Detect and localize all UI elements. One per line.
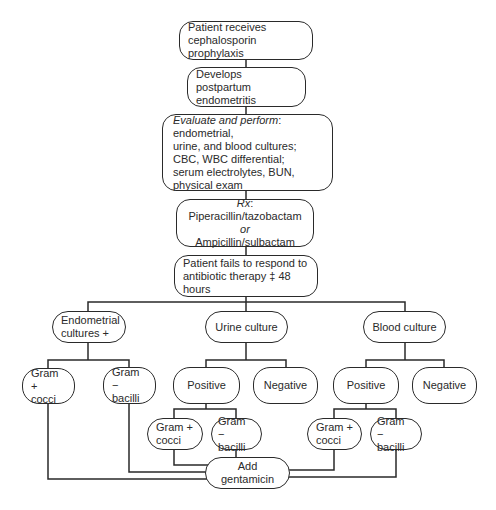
node-urine-gram-positive: Gram + cocci bbox=[147, 418, 203, 450]
node-label-italic: Evaluate and perform bbox=[173, 114, 278, 126]
node-rx-antibiotics: Rx: Piperacillin/tazobactamorAmpicillin/… bbox=[176, 199, 314, 247]
node-blood-gram-negative: Gram − bacilli bbox=[370, 418, 422, 450]
node-blood-culture: Blood culture bbox=[363, 311, 446, 343]
node-urine-positive: Positive bbox=[173, 367, 240, 404]
node-label: Endometrial cultures + bbox=[61, 314, 120, 340]
node-label: Gram + cocci bbox=[316, 421, 353, 447]
node-endometrial-gram-negative: Gram − bacilli bbox=[103, 367, 156, 404]
node-urine-negative: Negative bbox=[253, 367, 318, 404]
node-label: Urine culture bbox=[215, 321, 277, 334]
node-patient-receives-prophylaxis: Patient receives cephalosporin prophylax… bbox=[179, 21, 313, 60]
node-evaluate-and-perform: Evaluate and perform: endometrial, urine… bbox=[162, 114, 333, 191]
node-blood-negative: Negative bbox=[412, 367, 477, 404]
node-label-or: or bbox=[240, 223, 250, 235]
node-fails-to-respond: Patient fails to respond to antibiotic t… bbox=[174, 255, 318, 297]
node-label: Gram − bacilli bbox=[218, 415, 253, 454]
node-add-gentamicin: Add gentamicin bbox=[205, 457, 290, 489]
node-label: Patient receives cephalosporin prophylax… bbox=[188, 21, 304, 60]
node-label: Add gentamicin bbox=[214, 460, 281, 486]
node-label: Negative bbox=[264, 379, 307, 392]
node-blood-positive: Positive bbox=[333, 367, 399, 404]
node-develops-endometritis: Develops postpartum endometritis bbox=[187, 67, 306, 107]
node-label: Ampicillin/sulbactam bbox=[195, 236, 295, 248]
node-label: Gram − bacilli bbox=[377, 415, 413, 454]
node-label: Positive bbox=[347, 379, 386, 392]
node-label: Positive bbox=[187, 379, 226, 392]
node-label: Patient fails to respond to antibiotic t… bbox=[183, 257, 309, 296]
node-urine-gram-negative: Gram − bacilli bbox=[211, 418, 262, 450]
node-endometrial-gram-positive: Gram + cocci bbox=[22, 368, 75, 404]
node-label: Gram − bacilli bbox=[112, 366, 147, 405]
node-blood-gram-positive: Gram + cocci bbox=[307, 418, 362, 450]
node-label: Gram + cocci bbox=[31, 367, 66, 406]
node-label: Blood culture bbox=[372, 321, 436, 334]
node-label: Gram + cocci bbox=[156, 421, 193, 447]
node-label: Negative bbox=[423, 379, 466, 392]
node-label: Develops postpartum endometritis bbox=[196, 68, 297, 107]
node-endometrial-cultures: Endometrial cultures + bbox=[52, 311, 126, 343]
flowchart: Patient receives cephalosporin prophylax… bbox=[0, 0, 496, 510]
node-urine-culture: Urine culture bbox=[205, 311, 288, 343]
node-label-italic: Rx bbox=[237, 197, 250, 209]
